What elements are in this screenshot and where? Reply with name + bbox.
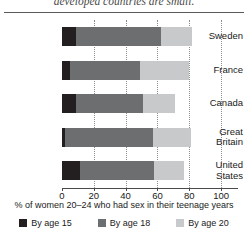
bar-segment bbox=[62, 27, 76, 46]
bar-segment bbox=[80, 161, 155, 180]
bar-group bbox=[62, 128, 191, 147]
legend-swatch-icon bbox=[176, 219, 184, 227]
figure-caption-text: developed countries are small. bbox=[0, 0, 248, 8]
legend-swatch-icon bbox=[19, 219, 27, 227]
bar-group bbox=[62, 61, 189, 80]
bar-segment bbox=[154, 161, 184, 180]
bar-segment bbox=[76, 27, 160, 46]
category-label-great-britain: GreatBritain bbox=[183, 127, 243, 148]
bar-segment bbox=[62, 94, 76, 113]
chart-figure: developed countries are small. 020406080… bbox=[0, 0, 248, 233]
x-axis-line bbox=[62, 188, 238, 189]
category-label-france: France bbox=[183, 65, 243, 76]
bar-segment bbox=[62, 161, 80, 180]
chart-legend: By age 15By age 18By age 20 bbox=[0, 216, 248, 230]
bar-segment bbox=[76, 94, 143, 113]
legend-label: By age 18 bbox=[110, 218, 151, 228]
bar-group bbox=[62, 161, 184, 180]
bar-segment bbox=[62, 61, 70, 80]
legend-label: By age 15 bbox=[31, 218, 72, 228]
figure-caption-clipped: developed countries are small. bbox=[0, 0, 248, 11]
horizontal-rule bbox=[4, 12, 244, 13]
bar-segment bbox=[143, 94, 175, 113]
legend-item[interactable]: By age 20 bbox=[176, 218, 229, 228]
legend-swatch-icon bbox=[98, 219, 106, 227]
x-axis-label: % of women 20–24 who had sex in their te… bbox=[0, 200, 248, 210]
legend-item[interactable]: By age 18 bbox=[98, 218, 151, 228]
category-label-canada: Canada bbox=[183, 98, 243, 109]
bar-segment bbox=[140, 61, 189, 80]
legend-item[interactable]: By age 15 bbox=[19, 218, 72, 228]
category-label-sweden: Sweden bbox=[183, 31, 243, 42]
category-label-united-states: UnitedStates bbox=[183, 160, 243, 181]
bar-group bbox=[62, 94, 175, 113]
bar-segment bbox=[65, 128, 153, 147]
bar-group bbox=[62, 27, 192, 46]
bar-segment bbox=[70, 61, 140, 80]
legend-label: By age 20 bbox=[188, 218, 229, 228]
